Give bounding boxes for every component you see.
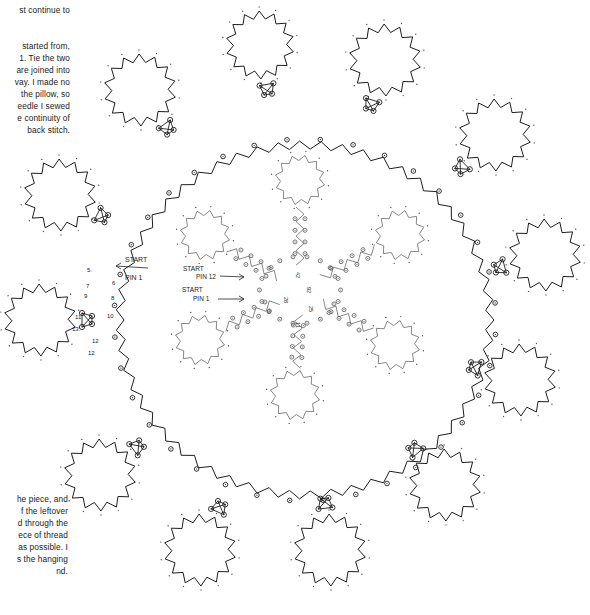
pin-dot (478, 171, 479, 172)
pin-center (341, 261, 342, 262)
pin-center (338, 278, 339, 279)
pin-dot (513, 170, 514, 171)
pin-dot (100, 514, 101, 515)
pin-dot (0, 311, 1, 312)
pin-dot (177, 244, 178, 245)
pin-dot (414, 510, 415, 511)
pin-dot (198, 509, 199, 510)
pin-number-label: 9 (84, 293, 88, 299)
pin-dot (405, 476, 406, 477)
pin-dot (216, 513, 217, 514)
pin-center (261, 301, 262, 302)
pin-center (149, 424, 150, 425)
pin-center (506, 272, 507, 273)
pin-center (373, 110, 374, 111)
pin-dot (209, 367, 210, 368)
pin-center (330, 268, 331, 269)
pin-center (477, 375, 478, 376)
pin-center (255, 270, 256, 271)
tie-line (224, 504, 225, 514)
inner-arm (296, 207, 304, 265)
pin-center (235, 258, 236, 259)
pin-dot (423, 350, 424, 351)
pin-dot (401, 23, 402, 24)
pin-dot (480, 371, 481, 372)
pin-center (292, 256, 293, 257)
pin-dot (107, 65, 108, 66)
pin-center (147, 217, 148, 218)
pin-dot (223, 54, 224, 55)
pin-dot (427, 225, 428, 226)
pin-dot (476, 99, 477, 100)
pin-dot (368, 540, 369, 541)
pin-center (223, 514, 224, 515)
pin-dot (550, 354, 551, 355)
pin-dot (9, 345, 10, 346)
pin-center (415, 467, 416, 468)
pin-dot (81, 439, 82, 440)
outer-flower-3 (350, 24, 421, 96)
pin-center (301, 357, 302, 358)
pin-center (460, 215, 461, 216)
pin-dot (29, 220, 30, 221)
pin-dot (167, 525, 168, 526)
pin-center (408, 447, 409, 448)
pin-center (338, 301, 339, 302)
pin-center (493, 264, 494, 265)
pin-center (302, 336, 303, 337)
pin-dot (291, 559, 292, 560)
pin-dot (319, 158, 320, 159)
pin-dot (484, 492, 485, 493)
pin-center (304, 218, 305, 219)
pin-center (225, 504, 226, 505)
pin-dot (375, 366, 376, 367)
pin-dot (406, 494, 407, 495)
pin-dot (244, 79, 245, 80)
inner-flower-4 (271, 371, 320, 420)
pin-center (365, 98, 366, 99)
pin-dot (121, 54, 122, 55)
pin-center (345, 270, 346, 271)
pin-dot (511, 98, 512, 99)
pin-dot (131, 499, 132, 500)
pin-center (170, 448, 171, 449)
pin-center (386, 483, 387, 484)
pin-dot (38, 279, 39, 280)
pin-center (245, 264, 246, 265)
pin-dot (403, 95, 404, 96)
pin-dot (278, 160, 279, 161)
pin-dot (140, 129, 141, 130)
pin-dot (505, 246, 506, 247)
pin-dot (394, 263, 395, 264)
inner-pin-1-label: PIN 1 (193, 295, 210, 302)
outer-flower-8 (295, 514, 366, 586)
pin-dot (305, 151, 306, 152)
pin-center (354, 315, 355, 316)
pin-dot (297, 525, 298, 526)
pin-center (173, 129, 174, 130)
pin-center (320, 260, 321, 261)
pin-dot (267, 404, 268, 405)
pin-center (273, 83, 274, 84)
inner-flower-5 (176, 316, 225, 365)
pin-dot (116, 438, 117, 439)
pin-dot (273, 375, 274, 376)
pin-center (355, 494, 356, 495)
pin-center (322, 500, 323, 501)
inner-start-1-label: START (182, 286, 203, 293)
pin-dot (118, 510, 119, 511)
pin-center (261, 278, 262, 279)
outer-flower-9 (165, 514, 236, 586)
pin-center (291, 357, 292, 358)
pin-dot (98, 185, 99, 186)
pin-center (254, 145, 255, 146)
pin-dot (98, 434, 99, 435)
pin-center (352, 255, 353, 256)
pin-center (302, 346, 303, 347)
pin-dot (428, 240, 429, 241)
inner-flower-2 (376, 211, 425, 260)
pin-dot (214, 262, 215, 263)
pin-dot (445, 524, 446, 525)
pin-center (330, 311, 331, 312)
pin-center (260, 261, 261, 262)
